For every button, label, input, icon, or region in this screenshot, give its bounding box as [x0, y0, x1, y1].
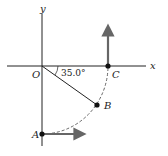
x-axis-label: x: [150, 60, 156, 71]
point-c-label: C: [112, 69, 120, 80]
point-b-label: B: [103, 100, 111, 111]
point-c: [105, 63, 110, 68]
point-b: [94, 102, 99, 107]
y-axis-label: y: [39, 3, 46, 14]
point-a-label: A: [31, 129, 39, 140]
angle-arc: [55, 66, 58, 75]
circular-motion-diagram: y x O 35.0° C B A: [0, 0, 168, 156]
point-a: [39, 131, 44, 136]
origin-label: O: [32, 69, 40, 80]
angle-label: 35.0°: [61, 68, 86, 78]
